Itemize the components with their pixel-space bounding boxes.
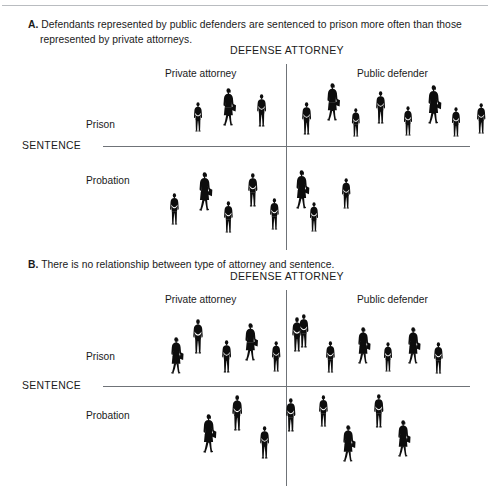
person-icon-man	[246, 173, 260, 207]
person-icon-man	[222, 201, 235, 233]
panel-a-column-label-public: Public defender	[357, 68, 428, 79]
panel-a-quadrant-prison-private	[160, 80, 280, 144]
panel-a-vertical-axis	[286, 64, 287, 250]
panel-a-quadrant-prison-public	[292, 80, 488, 144]
panel-b-quadrant-probation-public	[292, 392, 488, 482]
person-icon-man	[372, 394, 386, 428]
panel-b-column-axis-title: DEFENSE ATTORNEY	[230, 270, 344, 282]
person-icon-man	[382, 342, 394, 372]
person-icon-woman	[395, 420, 412, 457]
person-icon-man	[475, 103, 487, 134]
panel-a-caption-line1: Defendants represented by public defende…	[41, 19, 462, 30]
panel-a: A. Defendants represented by public defe…	[0, 18, 490, 250]
person-icon-man	[192, 102, 204, 132]
person-icon-man	[402, 106, 414, 136]
person-icon-man	[324, 341, 337, 373]
panel-b-caption-line1: There is no relationship between type of…	[41, 259, 334, 270]
panel-b-row-label-prison: Prison	[86, 351, 115, 362]
panel-b-quadrant-prison-private	[158, 314, 286, 384]
panel-b: B. There is no relationship between type…	[0, 258, 490, 487]
person-icon-man	[270, 341, 282, 372]
person-icon-man	[300, 102, 313, 135]
panel-a-row-label-probation: Probation	[86, 175, 130, 186]
panel-b-row-label-probation: Probation	[86, 410, 130, 421]
person-icon-man	[255, 94, 268, 127]
panel-a-row-axis-title: SENTENCE	[22, 140, 81, 151]
person-icon-man	[297, 314, 311, 348]
panel-b-quadrant-prison-public	[292, 314, 488, 384]
person-icon-woman	[324, 83, 342, 121]
person-icon-woman	[242, 323, 260, 361]
person-icon-woman	[200, 414, 218, 453]
person-icon-woman	[340, 425, 357, 462]
person-icon-man	[340, 178, 352, 209]
person-icon-woman	[220, 88, 238, 126]
person-icon-man	[168, 193, 181, 225]
page-top-divider	[2, 5, 488, 6]
panel-b-vertical-axis	[286, 290, 287, 486]
person-icon-man	[450, 107, 462, 137]
person-icon-woman	[405, 327, 422, 364]
panel-b-column-label-private: Private attorney	[165, 294, 236, 305]
panel-a-caption: A. Defendants represented by public defe…	[28, 18, 476, 47]
person-icon-man	[230, 395, 244, 431]
panel-a-row-label-prison: Prison	[86, 119, 115, 130]
person-icon-man	[317, 395, 330, 427]
panel-a-column-label-private: Private attorney	[165, 68, 236, 79]
panel-a-column-axis-title: DEFENSE ATTORNEY	[230, 44, 344, 56]
person-icon-man	[191, 319, 205, 354]
person-icon-woman	[168, 337, 185, 374]
panel-b-column-label-public: Public defender	[357, 294, 428, 305]
panel-a-quadrant-probation-public	[292, 166, 488, 246]
person-icon-woman	[425, 85, 443, 124]
person-icon-man	[350, 108, 362, 137]
panel-b-quadrant-probation-private	[158, 392, 286, 482]
person-icon-man	[258, 426, 271, 459]
panel-b-row-axis-title: SENTENCE	[22, 380, 81, 391]
panel-b-letter: B.	[28, 259, 38, 270]
figure-page: A. Defendants represented by public defe…	[0, 0, 490, 487]
person-icon-man	[268, 198, 281, 230]
person-icon-man	[374, 91, 387, 124]
person-icon-woman	[196, 172, 214, 211]
person-icon-woman	[355, 327, 372, 364]
panel-a-quadrant-probation-private	[160, 166, 284, 246]
panel-a-letter: A.	[28, 19, 38, 30]
person-icon-man	[432, 342, 445, 374]
person-icon-man	[220, 340, 233, 373]
